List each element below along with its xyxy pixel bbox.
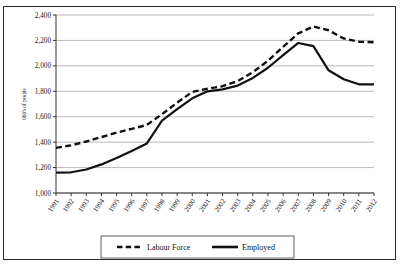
plot-background [56, 15, 374, 193]
x-tick-label: 1996 [122, 197, 137, 213]
y-tick-label: 2,400 [35, 12, 52, 20]
x-tick-label: 2008 [304, 197, 319, 213]
y-axis-tick-labels: 2,4002,2002,0001,8001,6001,4001,2001,000 [35, 12, 56, 198]
x-tick-label: 2005 [258, 197, 273, 213]
y-tick-label: 1,400 [35, 139, 52, 147]
y-tick-label: 1,200 [35, 164, 52, 172]
y-axis-title-text: 000's of people [21, 88, 27, 120]
y-tick-label: 1,600 [35, 113, 52, 121]
x-tick-label: 2007 [289, 197, 304, 213]
legend-label-employed: Employed [242, 243, 275, 252]
x-tick-label: 2002 [213, 197, 228, 213]
y-tick-label: 2,200 [35, 37, 52, 45]
chart-figure: 2,4002,2002,0001,8001,6001,4001,2001,000… [0, 0, 400, 266]
x-tick-label: 1998 [152, 197, 167, 213]
x-tick-label: 2012 [364, 197, 379, 213]
y-tick-label: 1,000 [35, 190, 52, 198]
chart-legend: Labour ForceEmployed [101, 236, 294, 258]
x-tick-label: 1997 [137, 197, 152, 213]
x-tick-label: 2006 [273, 197, 288, 213]
x-tick-label: 2011 [349, 197, 364, 213]
x-tick-label: 1992 [61, 197, 76, 213]
chart-svg: 2,4002,2002,0001,8001,6001,4001,2001,000… [0, 0, 400, 266]
x-tick-label: 2004 [243, 197, 258, 213]
x-axis-tick-labels: 1991199219931994199519961997199819992000… [46, 193, 379, 214]
y-tick-label: 1,800 [35, 88, 52, 96]
x-tick-label: 2010 [334, 197, 349, 213]
y-tick-label: 2,000 [35, 62, 52, 70]
x-tick-label: 2009 [319, 197, 334, 213]
x-tick-label: 2003 [228, 197, 243, 213]
line-chart: 2,4002,2002,0001,8001,6001,4001,2001,000… [0, 0, 400, 266]
x-tick-label: 1993 [77, 197, 92, 213]
x-tick-label: 1994 [92, 197, 107, 213]
x-tick-label: 1991 [46, 197, 61, 213]
y-axis-title: 000's of people [21, 88, 27, 120]
x-tick-label: 2000 [183, 197, 198, 213]
x-tick-label: 1995 [107, 197, 122, 213]
x-tick-label: 2001 [198, 197, 213, 213]
x-tick-label: 1999 [167, 197, 182, 213]
legend-label-labour-force: Labour Force [147, 243, 191, 252]
